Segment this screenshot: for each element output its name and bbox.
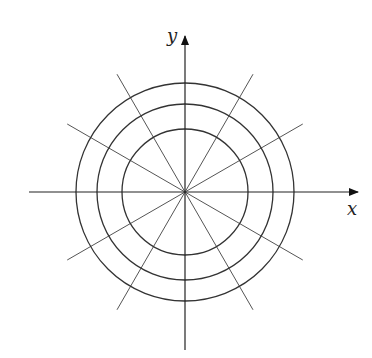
polar-grid-canvas	[0, 0, 372, 358]
polar-grid-diagram: y x	[0, 0, 372, 358]
y-axis-label: y	[167, 25, 177, 46]
x-axis-label: x	[347, 198, 357, 219]
